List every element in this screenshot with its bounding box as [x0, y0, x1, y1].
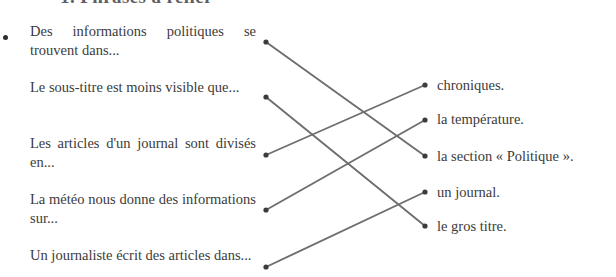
left-prompt-5[interactable]: Un journaliste écrit des articles dans..…: [30, 246, 256, 265]
connector-anchor-dots[interactable]: [263, 39, 427, 269]
exercise-page: 1. Phrases à relier Des informations pol…: [0, 0, 616, 277]
right-answer-2[interactable]: la température.: [437, 110, 524, 128]
right-answer-3[interactable]: la section « Politique ».: [437, 147, 574, 165]
anchor-dot-L2[interactable]: [263, 94, 268, 99]
anchor-dot-L4[interactable]: [263, 207, 268, 212]
right-answer-4[interactable]: un journal.: [437, 183, 500, 201]
right-answer-1[interactable]: chroniques.: [437, 76, 504, 94]
anchor-dot-R2[interactable]: [422, 117, 427, 122]
bullet-dot-icon: [3, 35, 8, 40]
anchor-dot-L3[interactable]: [263, 152, 268, 157]
connector-line-L5-R4[interactable]: [266, 192, 425, 267]
anchor-dot-R4[interactable]: [422, 189, 427, 194]
connector-line-L1-R3[interactable]: [266, 42, 425, 156]
anchor-dot-L5[interactable]: [263, 264, 268, 269]
anchor-dot-R3[interactable]: [422, 153, 427, 158]
connector-line-L4-R2[interactable]: [266, 120, 425, 210]
anchor-dot-L1[interactable]: [263, 39, 268, 44]
anchor-dot-R5[interactable]: [422, 223, 427, 228]
left-prompt-4[interactable]: La météo nous donne des informations sur…: [30, 190, 256, 228]
connector-line-L3-R1[interactable]: [266, 85, 425, 155]
left-prompt-2[interactable]: Le sous-titre est moins visible que...: [30, 78, 256, 97]
connector-lines[interactable]: [266, 42, 425, 267]
anchor-dot-R1[interactable]: [422, 82, 427, 87]
right-answer-5[interactable]: le gros titre.: [437, 217, 507, 235]
connector-line-L2-R5[interactable]: [266, 97, 425, 226]
page-title: 1. Phrases à relier: [60, 0, 480, 6]
left-prompt-3[interactable]: Les articles d'un journal sont divisés e…: [30, 134, 256, 172]
left-prompt-1[interactable]: Des informations politiques se trouvent …: [30, 22, 256, 60]
